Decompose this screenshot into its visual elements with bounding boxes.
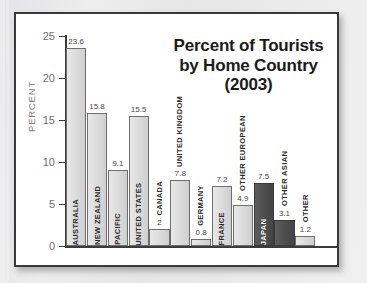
bar-slot: 23.6AUSTRALIA [66,36,86,246]
bar-category-label: JAPAN [260,216,268,245]
bar-value-label: 15.5 [131,106,147,114]
bar-germany[interactable] [191,239,211,246]
bar-value-label: 3.1 [279,210,290,218]
y-axis-tick [59,78,66,79]
y-axis-tick [59,246,66,247]
y-axis-label: PERCENT [26,81,37,132]
bar-category-label: OTHER EUROPEAN [239,121,247,191]
y-axis-tick-label: 10 [43,157,55,168]
bar-category-label: CANADA [156,182,164,216]
bar-category-label: NEW ZEALAND [93,189,101,246]
bar-value-label: 23.6 [68,38,84,46]
bar-other-european[interactable] [233,205,253,246]
bar-value-label: 1.2 [300,226,311,234]
background-stripe [6,0,9,283]
bar-slot: 9.1PACIFIC [108,36,128,246]
y-axis-tick-label: 25 [43,31,55,42]
bar-category-label: GERMANY [197,187,205,225]
bar-category-label: PACIFIC [114,207,122,245]
chart-title-line-2: by Home Country [166,56,331,76]
bar-category-label: OTHER ASIAN [281,150,289,207]
bar-value-label: 7.8 [175,170,186,178]
bar-value-label: 7.2 [216,176,227,184]
background-stripe [0,0,5,283]
bar-other-asian[interactable] [274,220,294,246]
x-axis-line [65,246,337,248]
bar-value-label: 9.1 [112,160,123,168]
bar-value-label: 4.9 [237,195,248,203]
chart-title-line-3: (2003) [166,75,331,95]
bar-slot: 15.5UNITED STATES [129,36,149,246]
y-axis-tick-label: 20 [43,73,55,84]
bar-category-label: FRANCE [218,212,226,246]
bar-category-label: UNITED KINGDOM [177,96,185,166]
bar-category-label: UNITED STATES [135,179,143,245]
screenshot-canvas: PERCENT 0510152025 23.6AUSTRALIA15.8NEW … [0,0,367,283]
bar-chart: PERCENT 0510152025 23.6AUSTRALIA15.8NEW … [16,14,337,265]
bar-value-label: 15.8 [89,103,105,111]
bar-value-label: 2 [157,219,161,227]
y-axis-tick-label: 15 [43,115,55,126]
y-axis-tick [59,36,66,37]
bar-category-label: OTHER [302,193,310,222]
y-axis-tick [59,162,66,163]
bar-value-label: 7.5 [258,173,269,181]
y-axis-tick-label: 5 [49,199,55,210]
y-axis-tick [59,204,66,205]
y-axis-tick-label: 0 [49,241,55,252]
bar-canada[interactable] [149,229,169,246]
bar-other[interactable] [295,236,315,246]
bar-value-label: 0.8 [196,229,207,237]
chart-plate: PERCENT 0510152025 23.6AUSTRALIA15.8NEW … [14,12,339,267]
chart-title-line-1: Percent of Tourists [166,36,331,56]
bar-slot: 15.8NEW ZEALAND [87,36,107,246]
y-axis-tick [59,120,66,121]
bar-united-kingdom[interactable] [170,180,190,246]
chart-title: Percent of Tourists by Home Country (200… [166,36,331,95]
bar-category-label: AUSTRALIA [72,198,80,245]
